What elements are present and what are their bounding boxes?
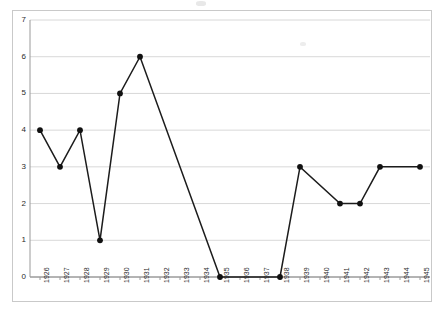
x-axis-tick-label: 1931	[143, 267, 150, 283]
axes	[30, 20, 430, 277]
y-axis-tick-label: 0	[12, 273, 26, 281]
data-point-marker	[117, 91, 123, 97]
line-chart: 01234567 1926192719281929193019311932193…	[0, 0, 444, 315]
data-point-marker	[337, 201, 343, 207]
data-point-marker	[57, 164, 63, 170]
x-axis-tick-label: 1932	[163, 267, 170, 283]
data-point-marker	[377, 164, 383, 170]
x-axis-tick-label: 1944	[403, 267, 410, 283]
data-point-marker	[77, 127, 83, 133]
x-axis-tick-label: 1940	[323, 267, 330, 283]
x-axis-tick-label: 1936	[243, 267, 250, 283]
x-axis-tick-label: 1933	[183, 267, 190, 283]
x-axis-tick-label: 1942	[363, 267, 370, 283]
x-axis-tick-label: 1930	[123, 267, 130, 283]
data-point-marker	[37, 127, 43, 133]
x-axis-tick-label: 1929	[103, 267, 110, 283]
y-axis-tick-label: 3	[12, 163, 26, 171]
data-point-marker	[297, 164, 303, 170]
x-axis-tick-label: 1939	[303, 267, 310, 283]
x-axis-tick-label: 1926	[43, 267, 50, 283]
x-axis-tick-label: 1938	[283, 267, 290, 283]
x-axis-tick-label: 1927	[63, 267, 70, 283]
x-axis-tick-label: 1937	[263, 267, 270, 283]
x-axis-tick-label: 1941	[343, 267, 350, 283]
x-axis-tick-label: 1928	[83, 267, 90, 283]
y-axis-tick-label: 5	[12, 89, 26, 97]
x-axis-tick-label: 1943	[383, 267, 390, 283]
y-axis-tick-label: 2	[12, 200, 26, 208]
x-axis-tick-label: 1935	[223, 267, 230, 283]
y-axis-tick-label: 6	[12, 53, 26, 61]
data-point-marker	[137, 54, 143, 60]
x-axis-tick-label: 1934	[203, 267, 210, 283]
gridlines	[30, 20, 430, 277]
y-axis-tick-label: 7	[12, 16, 26, 24]
data-point-marker	[97, 237, 103, 243]
x-axis-tick-label: 1945	[423, 267, 430, 283]
y-axis-tick-label: 1	[12, 236, 26, 244]
data-point-marker	[417, 164, 423, 170]
data-point-marker	[357, 201, 363, 207]
y-axis-tick-label: 4	[12, 126, 26, 134]
